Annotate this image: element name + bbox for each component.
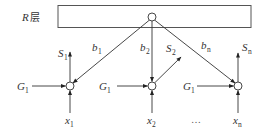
neural-layer-diagram: R 层 b 1 b 2 b n S 1 S 2 S n G 1	[0, 0, 264, 139]
output-label-s1: S 1	[58, 47, 68, 62]
r-layer-label-main: R	[21, 11, 29, 23]
gain-label-1: G 1	[17, 80, 29, 95]
summing-node-2	[148, 82, 156, 90]
input-label-xn: x n	[232, 114, 242, 129]
svg-text:1: 1	[64, 53, 68, 62]
r-layer-label: R 层	[21, 11, 40, 23]
svg-text:1: 1	[191, 86, 195, 95]
summing-node-1	[66, 82, 74, 90]
output-arrow-s2	[155, 57, 182, 83]
svg-text:1: 1	[98, 47, 102, 56]
gain-label-n: G 1	[183, 80, 195, 95]
svg-text:G: G	[183, 80, 191, 92]
output-label-sn: S n	[242, 41, 252, 56]
r-layer-label-suffix: 层	[30, 12, 40, 23]
svg-text:1: 1	[25, 86, 29, 95]
svg-text:1: 1	[70, 120, 74, 129]
svg-text:G: G	[17, 80, 25, 92]
output-label-s2: S 2	[166, 42, 176, 57]
summing-node-n	[234, 82, 242, 90]
svg-text:2: 2	[152, 120, 156, 129]
input-label-x1: x 1	[64, 114, 74, 129]
input-label-x2: x 2	[146, 114, 156, 129]
svg-text:n: n	[238, 120, 242, 129]
svg-text:2: 2	[172, 48, 176, 57]
weight-label-bn: b n	[201, 39, 211, 54]
weight-label-b2: b 2	[140, 41, 150, 56]
svg-text:2: 2	[146, 47, 150, 56]
svg-text:G: G	[99, 80, 107, 92]
svg-text:n: n	[248, 47, 252, 56]
svg-text:1: 1	[107, 86, 111, 95]
svg-text:n: n	[207, 45, 211, 54]
weight-label-b1: b 1	[92, 41, 102, 56]
weight-line-b1	[73, 20, 150, 83]
ellipsis: …	[191, 114, 201, 125]
gain-label-2: G 1	[99, 80, 111, 95]
top-node	[148, 13, 156, 21]
